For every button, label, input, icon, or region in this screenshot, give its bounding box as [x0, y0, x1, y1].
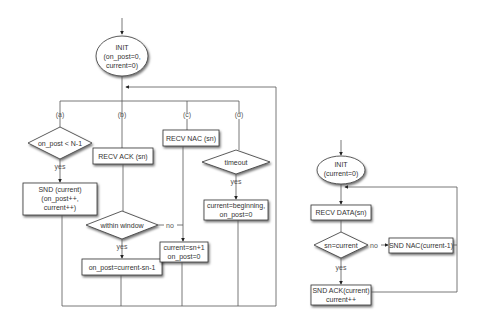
b-no-label: no: [166, 222, 174, 229]
recv-ack-label: RECV ACK (sn): [98, 153, 147, 161]
receiver-yes-label: yes: [336, 264, 347, 272]
a-yes-label: yes: [55, 163, 66, 171]
current-sn-line1: current=sn+1: [163, 244, 204, 251]
current-sn-line2: on_post=0: [168, 253, 201, 261]
b-yes-label: yes: [117, 243, 128, 251]
snd-ack-line1: SND ACK(current): [312, 287, 369, 295]
sender-init-line3: current=0): [106, 62, 138, 70]
decision-timeout-label: timeout: [225, 159, 248, 166]
sender-init-line2: (on_post=0,: [103, 53, 140, 61]
snd-current-line2: (on_post++,: [41, 195, 78, 203]
current-beginning-line2: on_post=0: [220, 211, 253, 219]
decision-sn-current-label: sn=current: [324, 242, 357, 249]
snd-current-line1: SND (current): [38, 186, 81, 194]
receiver-init-line2: (current=0): [324, 170, 358, 178]
recv-nac-label: RECV NAC (sn): [166, 135, 216, 143]
branch-a-label: (a): [56, 111, 65, 119]
snd-nac-label: SND NAC(current-1): [389, 242, 453, 250]
decision-on-post-label: on_post < N-1: [38, 140, 82, 148]
decision-within-window-label: within window: [99, 222, 144, 229]
receiver-init-title: INIT: [334, 161, 348, 168]
receiver-no-label: no: [370, 242, 378, 249]
snd-current-line3: current++): [44, 204, 76, 212]
on-post-update-label: on_post=current-sn-1: [89, 264, 156, 272]
flowchart-canvas: INIT (on_post=0, current=0) (a) on_post …: [0, 0, 477, 330]
current-beginning-line1: current=beginning,: [207, 202, 265, 210]
recv-data-label: RECV DATA(sn): [315, 209, 366, 217]
d-yes-label: yes: [231, 178, 242, 186]
branch-d-label: (d): [235, 111, 244, 119]
sender-init-title: INIT: [115, 44, 129, 51]
branch-c-label: (c): [183, 111, 191, 119]
branch-b-label: (b): [118, 111, 127, 119]
snd-ack-line2: current++: [326, 296, 356, 303]
